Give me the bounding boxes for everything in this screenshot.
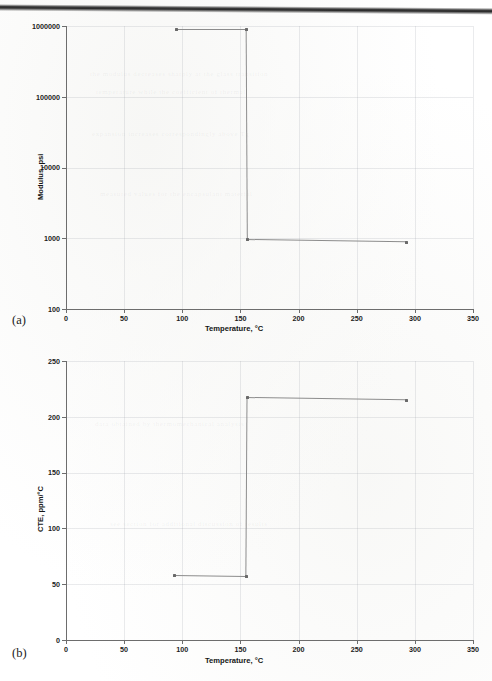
data-point-marker bbox=[246, 396, 249, 399]
x-axis-title-b: Temperature, °C bbox=[205, 656, 263, 665]
grid-line-vertical bbox=[182, 26, 183, 309]
grid-line-horizontal bbox=[66, 417, 473, 418]
x-axis-tick bbox=[240, 640, 241, 644]
panel-label-a: (a) bbox=[12, 313, 26, 328]
grid-line-vertical bbox=[415, 361, 416, 640]
x-axis-tick-label: 100 bbox=[168, 314, 196, 323]
grid-line-horizontal bbox=[66, 26, 473, 27]
x-axis-tick bbox=[124, 640, 125, 644]
x-axis-tick-label: 0 bbox=[52, 314, 80, 323]
grid-line-vertical bbox=[299, 26, 300, 309]
x-axis-spine bbox=[66, 640, 473, 641]
x-axis-tick-label: 350 bbox=[459, 645, 487, 654]
series-segment bbox=[177, 29, 247, 30]
data-point-marker bbox=[405, 399, 408, 402]
x-axis-tick bbox=[182, 309, 183, 313]
y-axis-spine bbox=[66, 26, 67, 309]
y-axis-tick bbox=[62, 473, 66, 474]
y-axis-tick bbox=[62, 97, 66, 98]
x-axis-tick bbox=[357, 640, 358, 644]
grid-line-vertical bbox=[473, 26, 474, 309]
x-axis-tick-label: 300 bbox=[401, 645, 429, 654]
data-point-marker bbox=[246, 238, 249, 241]
y-axis-tick bbox=[62, 584, 66, 585]
y-axis-spine bbox=[66, 361, 67, 640]
x-axis-tick bbox=[473, 309, 474, 313]
grid-line-horizontal bbox=[66, 528, 473, 529]
grid-line-vertical bbox=[357, 361, 358, 640]
x-axis-tick-label: 50 bbox=[110, 645, 138, 654]
x-axis-tick-label: 250 bbox=[343, 645, 371, 654]
x-axis-tick-label: 150 bbox=[226, 645, 254, 654]
x-axis-tick bbox=[124, 309, 125, 313]
y-axis-tick bbox=[62, 168, 66, 169]
data-point-marker bbox=[175, 28, 178, 31]
y-axis-tick-label: 0 bbox=[12, 636, 60, 645]
y-axis-title-a: Modulus, psi bbox=[36, 154, 45, 200]
grid-line-horizontal bbox=[66, 473, 473, 474]
y-axis-tick bbox=[62, 238, 66, 239]
x-axis-tick-label: 150 bbox=[226, 314, 254, 323]
x-axis-tick bbox=[473, 640, 474, 644]
y-axis-tick-label: 10000 bbox=[12, 163, 60, 172]
x-axis-tick bbox=[299, 309, 300, 313]
x-axis-tick-label: 50 bbox=[110, 314, 138, 323]
x-axis-tick bbox=[415, 309, 416, 313]
grid-line-horizontal bbox=[66, 361, 473, 362]
x-axis-tick bbox=[182, 640, 183, 644]
y-axis-tick-label: 250 bbox=[12, 357, 60, 366]
x-axis-tick-label: 200 bbox=[285, 645, 313, 654]
x-axis-tick bbox=[299, 640, 300, 644]
data-point-marker bbox=[173, 574, 176, 577]
grid-line-horizontal bbox=[66, 584, 473, 585]
y-axis-tick-label: 200 bbox=[12, 413, 60, 422]
y-axis-tick-label: 100 bbox=[12, 305, 60, 314]
y-axis-tick bbox=[62, 417, 66, 418]
x-axis-tick-label: 250 bbox=[343, 314, 371, 323]
grid-line-vertical bbox=[240, 361, 241, 640]
grid-line-vertical bbox=[124, 26, 125, 309]
x-axis-tick-label: 100 bbox=[168, 645, 196, 654]
x-axis-tick bbox=[66, 309, 67, 313]
grid-line-horizontal bbox=[66, 97, 473, 98]
grid-line-vertical bbox=[299, 361, 300, 640]
x-axis-tick-label: 0 bbox=[52, 645, 80, 654]
x-axis-tick bbox=[415, 640, 416, 644]
plot-area-b bbox=[66, 361, 473, 640]
y-axis-tick-label: 100000 bbox=[12, 93, 60, 102]
panel-label-b: (b) bbox=[12, 646, 27, 661]
y-axis-tick bbox=[62, 26, 66, 27]
y-axis-tick-label: 100 bbox=[12, 524, 60, 533]
y-axis-tick-label: 50 bbox=[12, 580, 60, 589]
x-axis-tick bbox=[357, 309, 358, 313]
data-point-marker bbox=[245, 28, 248, 31]
grid-line-vertical bbox=[415, 26, 416, 309]
grid-line-vertical bbox=[473, 361, 474, 640]
grid-line-vertical bbox=[357, 26, 358, 309]
x-axis-tick-label: 350 bbox=[459, 314, 487, 323]
y-axis-tick-label: 1000 bbox=[12, 234, 60, 243]
chart-b-cte: CTE, ppm/°C Temperature, °C (b) 05010015… bbox=[0, 340, 492, 681]
y-axis-tick-label: 150 bbox=[12, 468, 60, 477]
x-axis-tick bbox=[240, 309, 241, 313]
x-axis-tick-label: 300 bbox=[401, 314, 429, 323]
grid-line-vertical bbox=[124, 361, 125, 640]
x-axis-title-a: Temperature, °C bbox=[205, 324, 263, 333]
y-axis-tick bbox=[62, 528, 66, 529]
x-axis-tick-label: 200 bbox=[285, 314, 313, 323]
grid-line-horizontal bbox=[66, 168, 473, 169]
x-axis-tick bbox=[66, 640, 67, 644]
y-axis-tick bbox=[62, 361, 66, 362]
data-point-marker bbox=[405, 241, 408, 244]
data-point-marker bbox=[245, 575, 248, 578]
x-axis-spine bbox=[66, 309, 473, 310]
grid-line-vertical bbox=[240, 26, 241, 309]
grid-line-vertical bbox=[182, 361, 183, 640]
chart-a-modulus: Modulus, psi Temperature, °C (a) 1001000… bbox=[0, 0, 492, 340]
y-axis-tick-label: 1000000 bbox=[12, 22, 60, 31]
